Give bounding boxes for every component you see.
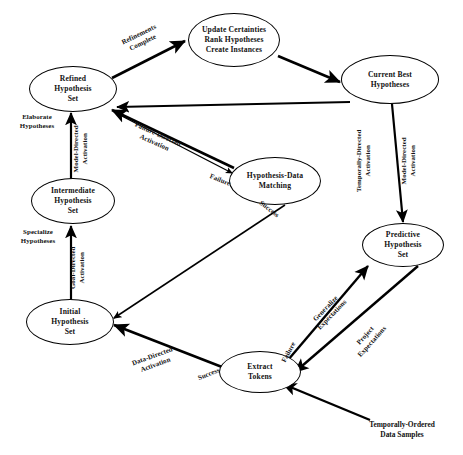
edge-match-success-to-initial	[114, 205, 285, 318]
node-label: Refined Hypothesis Set	[52, 74, 93, 104]
edge-input-to-extract	[283, 384, 370, 420]
node-current-best-hypotheses[interactable]: Current Best Hypotheses	[341, 55, 439, 104]
edge-update-to-currentbest	[278, 56, 340, 82]
edge-label-model-directed-activation-right: Model-Directed Activation	[400, 124, 418, 198]
node-hypothesis-data-matching[interactable]: Hypothesis-Data Matching	[229, 157, 321, 205]
node-label: Predictive Hypothesis Set	[382, 230, 423, 260]
node-label: Extract Tokens	[245, 362, 275, 382]
edge-label-failure-directed-activation: Failure-Directed Activation	[119, 116, 194, 162]
edge-label-project-expectations: Project Expectations	[342, 310, 397, 368]
edge-label-temporally-directed-activation: Temporally-Directed Activation	[355, 118, 373, 204]
edge-label-elaborate-hypotheses: Elaborate Hypotheses	[7, 113, 67, 131]
edge-label-refinements-complete: Refinements Complete	[107, 16, 176, 62]
node-label: Hypothesis-Data Matching	[245, 171, 305, 191]
node-label: Intermediate Hypothesis Set	[49, 186, 97, 216]
edge-label-goal-directed-activation: Goal-Directed Activation	[69, 236, 87, 300]
node-update-certainties[interactable]: Update Certainties Rank Hypotheses Creat…	[188, 13, 280, 67]
node-label: Initial Hypothesis Set	[49, 307, 90, 337]
node-intermediate-hypothesis-set[interactable]: Intermediate Hypothesis Set	[31, 178, 115, 224]
node-label: Update Certainties Rank Hypotheses Creat…	[200, 25, 268, 55]
node-refined-hypothesis-set[interactable]: Refined Hypothesis Set	[29, 66, 117, 112]
node-label: Current Best Hypotheses	[366, 70, 414, 90]
flowchart-diagram: Update Certainties Rank Hypotheses Creat…	[0, 0, 463, 455]
edge-label-specialize-hypotheses: Specialize Hypotheses	[8, 228, 68, 246]
edge-label-data-directed-activation: Data-Directed Activation	[118, 341, 190, 382]
caption-temporally-ordered-data-samples: Temporally-Ordered Data Samples	[348, 420, 456, 439]
edge-currentbest-to-refined	[117, 102, 350, 107]
edge-label-model-directed-activation-left: Model-Directed Activation	[72, 115, 90, 183]
node-predictive-hypothesis-set[interactable]: Predictive Hypothesis Set	[362, 223, 444, 267]
edge-label-generalize-expectations: Generalize Expectations	[299, 281, 359, 342]
node-initial-hypothesis-set[interactable]: Initial Hypothesis Set	[26, 299, 114, 345]
